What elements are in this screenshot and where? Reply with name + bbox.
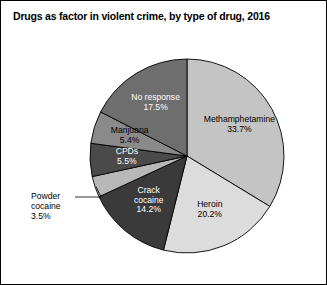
pie-slice-label: Crackcocaine14.2%	[134, 185, 164, 215]
pie-slice-label: CPDs5.5%	[116, 146, 138, 166]
pie-slice-label: Heroin20.2%	[197, 199, 223, 219]
pie-slice-label-outside: Powdercocaine3.5%	[31, 191, 61, 221]
chart-figure: Drugs as factor in violent crime, by typ…	[0, 0, 327, 285]
pie-chart-svg: Methamphetamine33.7%Heroin20.2%Crackcoca…	[1, 1, 327, 285]
pie-chart: Methamphetamine33.7%Heroin20.2%Crackcoca…	[1, 1, 327, 285]
